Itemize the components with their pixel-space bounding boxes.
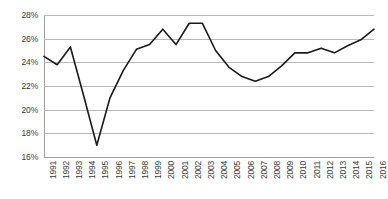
x-tick-label: 1991 bbox=[48, 161, 58, 179]
x-tick-label: 2002 bbox=[193, 161, 203, 179]
gridline bbox=[44, 157, 374, 158]
x-tick-label: 1998 bbox=[140, 161, 150, 179]
x-tick-label: 2016 bbox=[378, 161, 388, 179]
y-tick-label: 18% bbox=[22, 128, 38, 138]
x-tick-label: 1994 bbox=[87, 161, 97, 179]
data-series-line bbox=[44, 23, 374, 145]
x-tick-label: 2008 bbox=[272, 161, 282, 179]
x-tick-label: 2001 bbox=[180, 161, 190, 179]
x-tick-label: 1995 bbox=[100, 161, 110, 179]
x-tick-label: 2011 bbox=[312, 161, 322, 178]
x-tick-label: 2014 bbox=[351, 161, 361, 179]
x-tick-label: 2003 bbox=[206, 161, 216, 179]
y-tick-label: 16% bbox=[22, 152, 38, 162]
x-tick-label: 2005 bbox=[232, 161, 242, 179]
x-tick-label: 1996 bbox=[114, 161, 124, 179]
x-tick-label: 2015 bbox=[364, 161, 374, 179]
x-tick-label: 1999 bbox=[153, 161, 163, 179]
y-tick-label: 22% bbox=[22, 81, 38, 91]
x-tick-label: 2006 bbox=[246, 161, 256, 179]
y-tick-label: 24% bbox=[22, 57, 38, 67]
x-tick-label: 1993 bbox=[74, 161, 84, 179]
y-tick-label: 20% bbox=[22, 105, 38, 115]
x-tick-label: 2000 bbox=[166, 161, 176, 179]
x-axis: 1991199219931994199519961997199819992000… bbox=[44, 159, 374, 199]
x-tick-label: 2013 bbox=[338, 161, 348, 179]
x-tick-label: 2009 bbox=[285, 161, 295, 179]
x-tick-label: 1992 bbox=[61, 161, 71, 179]
plot-area bbox=[44, 15, 374, 157]
y-tick-label: 28% bbox=[22, 10, 38, 20]
x-tick-label: 2010 bbox=[298, 161, 308, 179]
y-axis: 28%26%24%22%20%18%16% bbox=[0, 0, 44, 199]
x-tick-label: 2012 bbox=[325, 161, 335, 179]
x-tick-label: 2004 bbox=[219, 161, 229, 179]
y-tick-label: 26% bbox=[22, 34, 38, 44]
x-tick-label: 1997 bbox=[127, 161, 137, 179]
x-tick-label: 2007 bbox=[259, 161, 269, 179]
series-layer bbox=[44, 15, 374, 157]
